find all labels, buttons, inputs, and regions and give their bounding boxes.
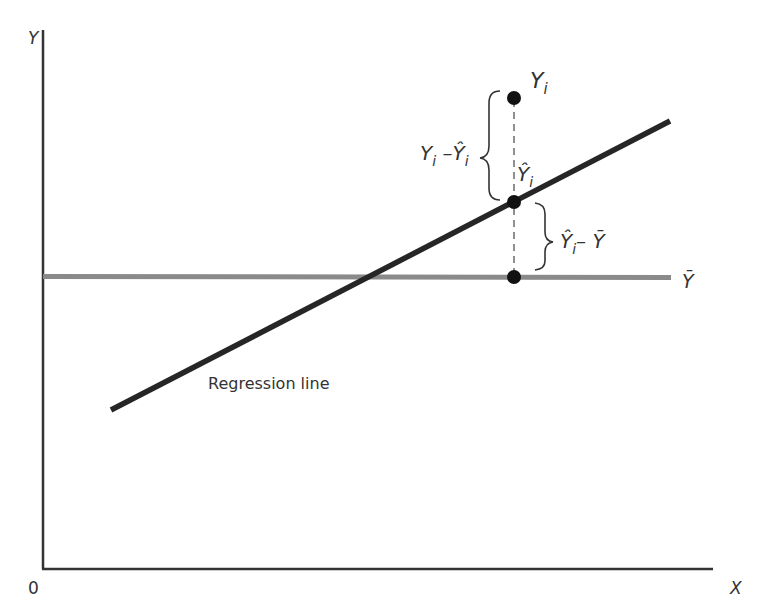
- mean-point: [507, 270, 521, 284]
- explained-brace-label: Ŷi– Ȳ: [560, 229, 606, 257]
- y-axis-label: Y: [28, 28, 40, 48]
- residual-brace: [480, 91, 500, 200]
- regression-line-group: Regression line: [111, 121, 670, 410]
- explained-brace-group: Ŷi– Ȳ: [535, 203, 606, 270]
- mean-line-label: Ȳ: [682, 269, 695, 292]
- regression-line-label: Regression line: [208, 374, 329, 393]
- origin-label: 0: [28, 578, 39, 598]
- mean-line: [43, 277, 671, 278]
- fitted-point: [507, 195, 521, 209]
- mean-line-group: Ȳ: [43, 269, 695, 292]
- regression-line: [111, 121, 670, 410]
- observed-point-label: Yi: [530, 68, 548, 98]
- explained-brace: [535, 203, 553, 270]
- residual-brace-label: Yi –Ŷi: [420, 141, 469, 169]
- axes: Y X 0: [28, 28, 742, 598]
- fitted-point-label: Ŷi: [517, 162, 533, 190]
- observed-point: [507, 91, 521, 105]
- x-axis-label: X: [729, 578, 742, 598]
- residual-brace-group: Yi –Ŷi: [420, 91, 500, 200]
- regression-decomposition-diagram: Y X 0 Ȳ Regression line Yi Ŷi Yi –Ŷi Ŷi–: [0, 0, 772, 614]
